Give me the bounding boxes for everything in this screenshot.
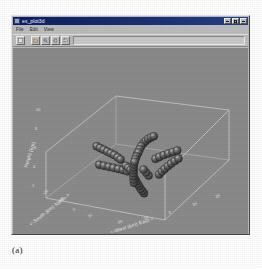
scatter-marker[interactable] bbox=[117, 156, 125, 164]
y-axis-label: <-South (km) North-> bbox=[28, 192, 71, 227]
marker-specular-highlight bbox=[141, 167, 144, 169]
window-title-bar[interactable]: ex_plot3d bbox=[13, 17, 248, 25]
scatter-marker[interactable] bbox=[174, 155, 182, 163]
plot-3d-scatter[interactable]: 10 8 6 4 2 Height (km) -20 -10 0 10 <-So… bbox=[13, 48, 248, 234]
print-button[interactable] bbox=[61, 36, 70, 45]
figure-caption: (a) bbox=[12, 245, 23, 255]
marker-specular-highlight bbox=[112, 153, 115, 155]
marker-specular-highlight bbox=[94, 144, 97, 146]
window-system-icon[interactable] bbox=[14, 18, 20, 24]
data-markers[interactable] bbox=[93, 132, 183, 200]
marker-specular-highlight bbox=[157, 155, 160, 157]
marker-specular-highlight bbox=[170, 150, 173, 152]
scatter-marker[interactable] bbox=[131, 158, 139, 166]
scanned-figure-page: ex_plot3d File Edit View bbox=[0, 0, 262, 269]
new-button[interactable] bbox=[16, 36, 25, 45]
z-tick-1: 2 bbox=[32, 183, 35, 188]
minimize-button[interactable] bbox=[224, 18, 231, 24]
menu-bar: File Edit View bbox=[13, 26, 248, 33]
y-tick-1: -20 bbox=[42, 188, 50, 196]
y-tick-3: 0 bbox=[72, 206, 77, 212]
document-icon bbox=[18, 38, 23, 43]
marker-specular-highlight bbox=[97, 162, 100, 164]
marker-specular-highlight bbox=[118, 157, 121, 159]
marker-specular-highlight bbox=[132, 159, 135, 161]
marker-specular-highlight bbox=[105, 149, 108, 151]
open-button[interactable] bbox=[31, 36, 40, 45]
x-tick-4: 10 bbox=[192, 201, 199, 207]
marker-specular-highlight bbox=[136, 150, 139, 152]
menu-item-edit[interactable]: Edit bbox=[30, 27, 38, 33]
z-tick-4: 8 bbox=[35, 126, 38, 131]
window-controls bbox=[224, 18, 247, 24]
menu-item-file[interactable]: File bbox=[16, 27, 24, 33]
menu-item-view[interactable]: View bbox=[44, 27, 54, 33]
x-tick-1: -20 bbox=[116, 218, 124, 225]
marker-specular-highlight bbox=[108, 151, 111, 153]
y-tick-4: 10 bbox=[87, 212, 94, 219]
marker-specular-highlight bbox=[115, 155, 118, 157]
window-title: ex_plot3d bbox=[22, 18, 224, 24]
scatter-marker[interactable] bbox=[150, 132, 158, 140]
zoom-button[interactable] bbox=[41, 36, 50, 45]
printer-icon bbox=[63, 38, 68, 43]
marker-specular-highlight bbox=[116, 167, 119, 169]
marker-specular-highlight bbox=[176, 156, 179, 158]
z-tick-5: 10 bbox=[36, 107, 41, 112]
folder-icon bbox=[33, 38, 38, 43]
scatter-marker[interactable] bbox=[140, 166, 148, 174]
toolbar-separator bbox=[26, 36, 30, 45]
y-axis-ticks: -20 -10 0 10 bbox=[42, 188, 94, 219]
rotate-icon bbox=[53, 38, 58, 43]
x-tick-5: 20 bbox=[215, 193, 222, 199]
marker-specular-highlight bbox=[175, 148, 178, 150]
marker-specular-highlight bbox=[106, 164, 109, 166]
marker-specular-highlight bbox=[102, 163, 105, 165]
marker-specular-highlight bbox=[101, 147, 104, 149]
marker-specular-highlight bbox=[161, 153, 164, 155]
toolbar-field[interactable] bbox=[73, 36, 245, 45]
scatter-marker[interactable] bbox=[173, 147, 181, 155]
maximize-button[interactable] bbox=[232, 18, 239, 24]
rotate-button[interactable] bbox=[51, 36, 60, 45]
marker-specular-highlight bbox=[111, 165, 114, 167]
marker-specular-highlight bbox=[98, 146, 101, 148]
z-tick-2: 4 bbox=[33, 164, 36, 169]
marker-specular-highlight bbox=[166, 151, 169, 153]
magnifier-icon bbox=[43, 38, 48, 43]
toolbar bbox=[13, 34, 248, 47]
close-button[interactable] bbox=[240, 18, 247, 24]
x-axis-ticks: -20 -10 0 10 20 bbox=[116, 193, 222, 225]
plot-canvas[interactable]: 10 8 6 4 2 Height (km) -20 -10 0 10 <-So… bbox=[13, 48, 248, 234]
marker-specular-highlight bbox=[151, 134, 154, 136]
application-window: ex_plot3d File Edit View bbox=[11, 15, 250, 235]
x-axis-label: <-West (km) East-> bbox=[109, 215, 154, 234]
